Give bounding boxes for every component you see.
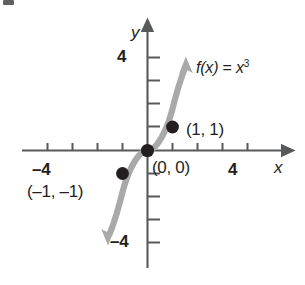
x-tick-label-4: 4: [228, 161, 237, 178]
function-base: x: [236, 59, 244, 76]
point-marker-n1-n1: [116, 167, 129, 180]
point-label-0-0: (0, 0): [152, 159, 190, 176]
y-tick-label-neg4: –4: [110, 233, 129, 250]
graph-canvas: [0, 0, 305, 285]
point-marker-1-1: [166, 121, 179, 134]
x-axis-label: x: [274, 159, 283, 176]
function-equals: =: [218, 59, 236, 76]
function-exponent: 3: [244, 58, 249, 69]
graph-figure: y x 4 –4 –4 4 (1, 1) (0, 0) (–1, –1) f(x…: [0, 0, 305, 285]
function-name: f(x): [196, 59, 218, 76]
function-equation-label: f(x) = x3: [196, 60, 249, 76]
point-label-1-1: (1, 1): [186, 121, 224, 138]
y-tick-label-4: 4: [117, 48, 126, 65]
y-axis-label: y: [131, 24, 140, 41]
point-label-neg1-neg1: (–1, –1): [27, 183, 83, 200]
x-tick-label-neg4: –4: [32, 161, 51, 178]
point-marker-0-0: [141, 144, 154, 157]
